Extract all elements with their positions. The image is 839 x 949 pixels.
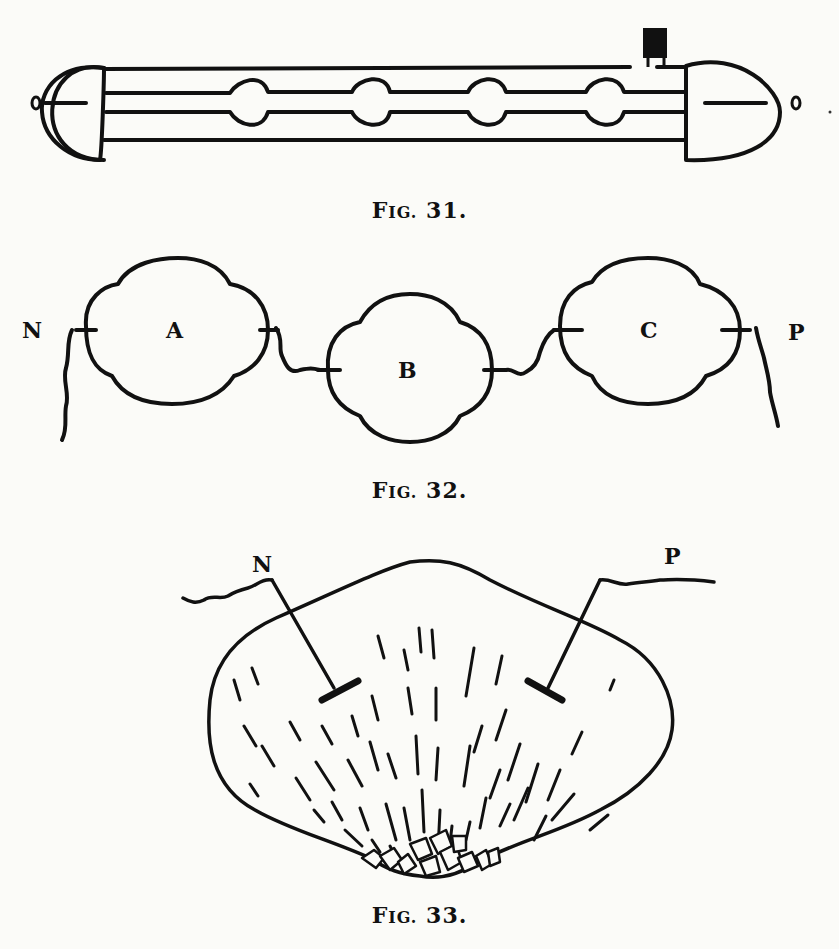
label-p: P	[788, 319, 805, 345]
top-terminal-block	[643, 28, 667, 58]
left-terminal-loop	[32, 97, 40, 109]
figure-31-caption: FIG. 31.	[0, 197, 839, 223]
caption-prefix: F	[372, 477, 389, 503]
caption-smallcaps: IG.	[388, 483, 417, 502]
figure-33-caption: FIG. 33.	[0, 902, 839, 928]
label-p: P	[664, 543, 681, 569]
wire-n	[183, 580, 272, 602]
cathode-plate	[322, 681, 358, 700]
label-n: N	[22, 317, 42, 343]
figure-31-drawing	[0, 0, 839, 200]
wire-p	[600, 580, 714, 585]
caption-prefix: F	[372, 902, 389, 928]
caption-number: 33.	[426, 902, 467, 928]
caption-prefix: F	[372, 197, 389, 223]
vessel-outline	[209, 561, 673, 878]
figure-32-caption: FIG. 32.	[0, 477, 839, 503]
label-a: A	[165, 317, 184, 343]
label-n: N	[252, 551, 272, 577]
caption-number: 31.	[426, 197, 467, 223]
wire-b-c	[506, 330, 554, 374]
crystal-pile	[362, 830, 500, 876]
caption-number: 32.	[426, 477, 467, 503]
caption-smallcaps: IG.	[388, 908, 417, 927]
book-page: FIG. 31. N A B C P	[0, 0, 839, 949]
figure-33-drawing: N P	[0, 540, 839, 910]
anode-plate	[528, 681, 562, 700]
wire-a-b	[276, 328, 320, 371]
label-c: C	[640, 317, 658, 343]
label-b: B	[398, 357, 417, 383]
caption-smallcaps: IG.	[388, 203, 417, 222]
wire-p	[756, 328, 778, 426]
wire-n	[62, 330, 72, 440]
figure-32-drawing: N A B C P	[0, 258, 839, 478]
right-terminal-loop	[792, 97, 800, 109]
